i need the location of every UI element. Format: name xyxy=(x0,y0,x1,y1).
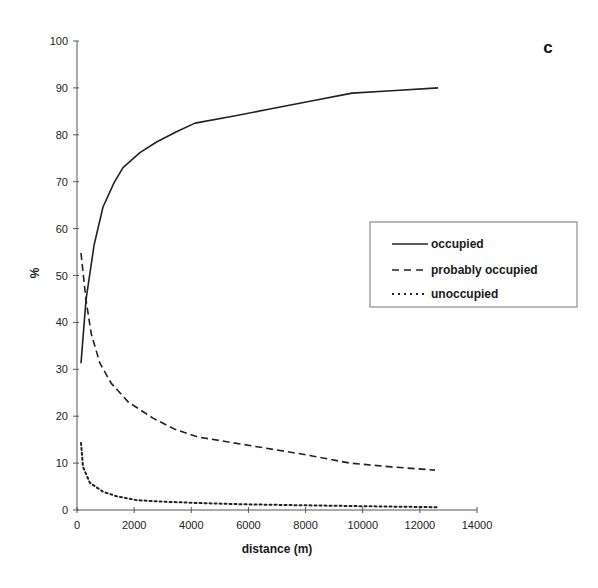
x-tick-label: 6000 xyxy=(236,519,260,531)
x-axis-title: distance (m) xyxy=(242,542,313,556)
x-tick-label: 14000 xyxy=(462,519,493,531)
y-tick-label: 40 xyxy=(56,316,68,328)
x-tick-label: 4000 xyxy=(179,519,203,531)
y-tick-label: 10 xyxy=(56,457,68,469)
y-tick-label: 90 xyxy=(56,82,68,94)
x-tick-label: 10000 xyxy=(347,519,378,531)
x-tick-label: 12000 xyxy=(405,519,436,531)
legend-label: unoccupied xyxy=(431,287,498,301)
x-tick-label: 0 xyxy=(74,519,80,531)
chart-figure: 0200040006000800010000120001400001020304… xyxy=(0,0,598,588)
y-tick-label: 20 xyxy=(56,410,68,422)
y-tick-label: 60 xyxy=(56,223,68,235)
legend: occupiedprobably occupiedunoccupied xyxy=(370,222,577,307)
y-tick-label: 30 xyxy=(56,363,68,375)
y-tick-label: 80 xyxy=(56,129,68,141)
y-tick-label: 100 xyxy=(50,35,68,47)
y-tick-label: 50 xyxy=(56,270,68,282)
y-tick-label: 70 xyxy=(56,176,68,188)
legend-label: probably occupied xyxy=(431,263,538,277)
x-tick-label: 2000 xyxy=(122,519,146,531)
series-unoccupied xyxy=(81,443,437,507)
legend-label: occupied xyxy=(431,237,484,251)
y-axis-title: % xyxy=(28,267,42,278)
panel-label: c xyxy=(543,38,552,57)
y-tick-label: 0 xyxy=(62,504,68,516)
x-tick-label: 8000 xyxy=(293,519,317,531)
